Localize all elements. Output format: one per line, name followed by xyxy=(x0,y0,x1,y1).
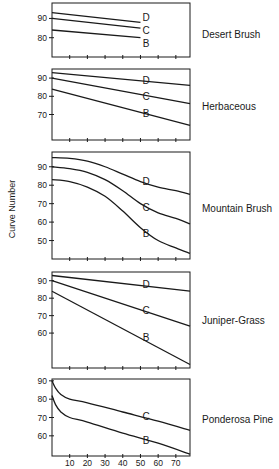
panel-juniper-grass: 60708090DCB xyxy=(38,272,190,370)
curve-label-c: C xyxy=(142,202,149,213)
x-tick-label: 60 xyxy=(153,458,163,468)
curve-label-d: D xyxy=(142,279,149,290)
x-tick-label: 50 xyxy=(136,458,146,468)
y-tick-label: 70 xyxy=(38,311,48,321)
y-tick-label: 80 xyxy=(38,180,48,190)
y-tick-label: 60 xyxy=(38,431,48,441)
x-tick-label: 20 xyxy=(83,458,93,468)
series-line-c xyxy=(52,167,190,224)
panel-ponderosa-pine: 6070809010203040506070CB xyxy=(38,376,190,468)
curve-label-b: B xyxy=(143,38,150,49)
y-tick-label: 60 xyxy=(38,217,48,227)
x-tick-label: 30 xyxy=(100,458,110,468)
series-line-d xyxy=(52,13,140,23)
y-tick-label: 80 xyxy=(38,33,48,43)
series-line-c xyxy=(52,281,190,326)
curve-label-c: C xyxy=(142,91,149,102)
y-tick-label: 80 xyxy=(38,394,48,404)
y-tick-label: 70 xyxy=(38,413,48,423)
y-tick-label: 50 xyxy=(38,236,48,246)
plot-frame xyxy=(52,379,190,456)
y-tick-label: 60 xyxy=(38,328,48,338)
curve-label-b: B xyxy=(143,435,150,446)
curve-label-d: D xyxy=(142,75,149,86)
series-line-b xyxy=(52,291,190,364)
panel-label-juniper-grass: Juniper-Grass xyxy=(202,315,265,326)
series-line-d xyxy=(52,73,190,86)
panel-label-herbaceous: Herbaceous xyxy=(202,101,256,112)
curve-label-d: D xyxy=(142,176,149,187)
y-tick-label: 90 xyxy=(38,376,48,386)
curve-label-b: B xyxy=(143,332,150,343)
curve-label-c: C xyxy=(142,25,149,36)
y-tick-label: 80 xyxy=(38,91,48,101)
panel-mountain-brush: 5060708090DCB xyxy=(38,152,190,261)
series-line-c xyxy=(52,78,190,103)
panel-label-desert-brush: Desert Brush xyxy=(202,29,260,40)
x-tick-label: 10 xyxy=(65,458,75,468)
y-tick-label: 90 xyxy=(38,162,48,172)
series-line-c xyxy=(52,381,190,431)
curve-label-c: C xyxy=(142,305,149,316)
plot-frame xyxy=(52,3,190,57)
curve-label-b: B xyxy=(143,108,150,119)
panel-label-mountain-brush: Mountain Brush xyxy=(202,203,272,214)
y-tick-label: 90 xyxy=(38,276,48,286)
x-tick-label: 70 xyxy=(171,458,181,468)
series-line-c xyxy=(52,18,140,28)
y-tick-label: 80 xyxy=(38,293,48,303)
curve-label-d: D xyxy=(142,12,149,23)
panel-herbaceous: 708090DCB xyxy=(38,69,190,142)
plot-frame xyxy=(52,152,190,259)
panel-label-ponderosa-pine: Ponderosa Pine xyxy=(202,414,273,425)
series-line-d xyxy=(52,275,190,291)
y-tick-label: 90 xyxy=(38,13,48,23)
curve-label-c: C xyxy=(142,411,149,422)
panel-desert-brush: 8090DCB xyxy=(38,3,190,59)
curve-label-b: B xyxy=(143,228,150,239)
series-line-b xyxy=(52,30,140,38)
y-tick-label: 70 xyxy=(38,199,48,209)
y-axis-label: Curve Number xyxy=(7,180,17,239)
y-tick-label: 70 xyxy=(38,110,48,120)
y-tick-label: 90 xyxy=(38,73,48,83)
x-tick-label: 40 xyxy=(118,458,128,468)
series-line-b xyxy=(52,89,190,125)
curve-number-chart: 8090DCB708090DCB5060708090DCB60708090DCB… xyxy=(0,0,279,469)
